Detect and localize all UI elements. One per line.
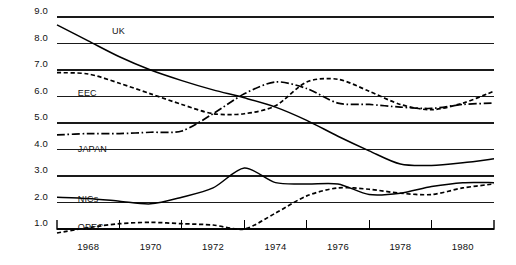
x-axis-group — [57, 220, 494, 229]
y-tick-label-2.0: 2.0 — [22, 192, 48, 202]
series-label-nics: NICs — [78, 195, 99, 204]
y-tick-label-5.0: 5.0 — [22, 112, 48, 122]
y-tick-label-9.0: 9.0 — [22, 6, 48, 16]
series-label-uk: UK — [112, 27, 125, 36]
series-label-japan: JAPAN — [78, 145, 107, 154]
series-line-japan — [57, 82, 494, 135]
y-tick-label-7.0: 7.0 — [22, 59, 48, 69]
gridlines-group — [57, 17, 494, 229]
y-tick-label-4.0: 4.0 — [22, 139, 48, 149]
x-tick-label-1974: 1974 — [252, 242, 300, 252]
x-tick-label-1980: 1980 — [439, 242, 487, 252]
series-line-uk — [57, 25, 494, 166]
y-tick-label-3.0: 3.0 — [22, 165, 48, 175]
x-tick-label-1976: 1976 — [314, 242, 362, 252]
x-tick-label-1970: 1970 — [127, 242, 175, 252]
series-line-opec — [57, 184, 494, 233]
series-label-eec: EEC — [78, 89, 97, 98]
x-tick-label-1972: 1972 — [189, 242, 237, 252]
x-axis-baseline — [57, 220, 494, 229]
y-tick-label-8.0: 8.0 — [22, 33, 48, 43]
y-tick-label-1.0: 1.0 — [22, 218, 48, 228]
series-label-opec: OPEC — [78, 223, 104, 232]
line-chart: 9.08.07.06.05.04.03.02.01.0 196819701972… — [0, 0, 516, 265]
x-tick-label-1978: 1978 — [376, 242, 424, 252]
series-line-nics — [57, 168, 494, 204]
series-lines-group — [57, 25, 494, 233]
y-tick-label-6.0: 6.0 — [22, 86, 48, 96]
x-tick-label-1968: 1968 — [64, 242, 112, 252]
